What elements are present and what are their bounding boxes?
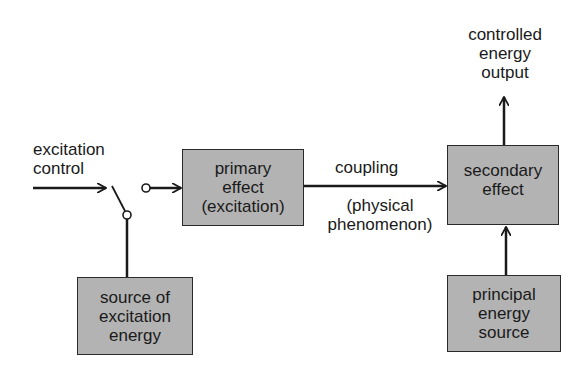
block-text: (excitation) [201, 197, 284, 216]
block-text: primary [215, 159, 272, 178]
primary-effect-block: primary effect (excitation) [182, 149, 304, 226]
label-line: coupling [335, 158, 398, 177]
source-of-excitation-energy-block: source of excitation energy [77, 277, 193, 355]
principal-energy-source-block: principal energy source [447, 275, 561, 352]
label-line: phenomenon) [314, 215, 446, 234]
block-text: principal [472, 285, 535, 304]
block-text: effect [222, 178, 263, 197]
physical-phenomenon-label: (physical phenomenon) [314, 196, 446, 234]
label-line: (physical [314, 196, 446, 215]
excitation-control-label: excitation control [33, 140, 105, 178]
block-text: effect [482, 180, 523, 199]
block-text: energy [478, 304, 530, 323]
label-line: controlled [450, 25, 560, 44]
label-line: excitation [33, 140, 105, 159]
coupling-label: coupling [335, 158, 398, 177]
label-line: output [450, 63, 560, 82]
secondary-effect-block: secondary effect [447, 145, 559, 225]
switch-pivot-terminal [123, 211, 131, 219]
label-line: control [33, 159, 105, 178]
switch-blade [112, 186, 125, 211]
block-text: energy [109, 326, 161, 345]
switch-output-terminal [142, 184, 150, 192]
block-text: excitation [99, 307, 171, 326]
block-text: secondary [464, 161, 542, 180]
label-line: energy [450, 44, 560, 63]
block-text: source [478, 323, 529, 342]
controlled-energy-output-label: controlled energy output [450, 25, 560, 82]
block-text: source of [100, 288, 170, 307]
